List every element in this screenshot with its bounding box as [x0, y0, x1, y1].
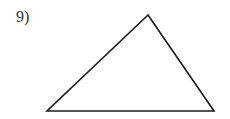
triangle-figure	[0, 0, 230, 119]
triangle-shape	[47, 15, 214, 111]
